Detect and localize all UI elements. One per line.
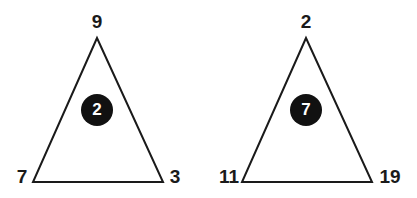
triangles-canvas	[0, 0, 417, 198]
triangle-1-bottom-right-number: 3	[170, 167, 181, 186]
triangle-1-bottom-left-number: 7	[17, 167, 28, 186]
triangle-2-bottom-left-number: 11	[219, 167, 239, 186]
triangle-2-top-number: 2	[301, 12, 312, 31]
triangle-2-center-circle: 7	[290, 94, 322, 126]
triangle-1-center-circle: 2	[81, 94, 113, 126]
triangle-2-bottom-right-number: 19	[379, 167, 400, 186]
triangle-1-top-number: 9	[92, 12, 103, 31]
